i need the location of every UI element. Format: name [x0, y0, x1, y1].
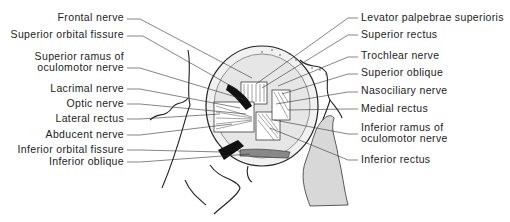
label-levator-palpebrae-superioris: Levator palpebrae superioris: [361, 12, 504, 23]
orbit-anatomy-figure: Frontal nerve Superior orbital fissure S…: [0, 0, 510, 222]
label-medial-rectus: Medial rectus: [361, 103, 428, 114]
label-nasociliary-nerve: Nasociliary nerve: [361, 85, 447, 96]
label-inferior-oblique: Inferior oblique: [49, 156, 124, 167]
lateral-orbital-rim: [162, 50, 190, 188]
label-inferior-orbital-fissure: Inferior orbital fissure: [18, 144, 124, 155]
label-lacrimal-nerve: Lacrimal nerve: [50, 83, 124, 94]
label-inferior-rectus: Inferior rectus: [361, 154, 430, 165]
label-frontal-nerve: Frontal nerve: [58, 12, 124, 23]
label-superior-oblique: Superior oblique: [361, 67, 443, 78]
label-superior-ramus-oculomotor-line2: oculomotor nerve: [37, 62, 124, 73]
label-trochlear-nerve: Trochlear nerve: [361, 50, 439, 61]
label-superior-orbital-fissure: Superior orbital fissure: [11, 29, 124, 40]
label-lateral-rectus: Lateral rectus: [55, 113, 124, 124]
label-abducent-nerve: Abducent nerve: [46, 129, 124, 140]
label-optic-nerve: Optic nerve: [66, 98, 124, 109]
label-inferior-ramus-oculomotor-line2: oculomotor nerve: [361, 133, 448, 144]
label-superior-rectus: Superior rectus: [361, 29, 437, 40]
